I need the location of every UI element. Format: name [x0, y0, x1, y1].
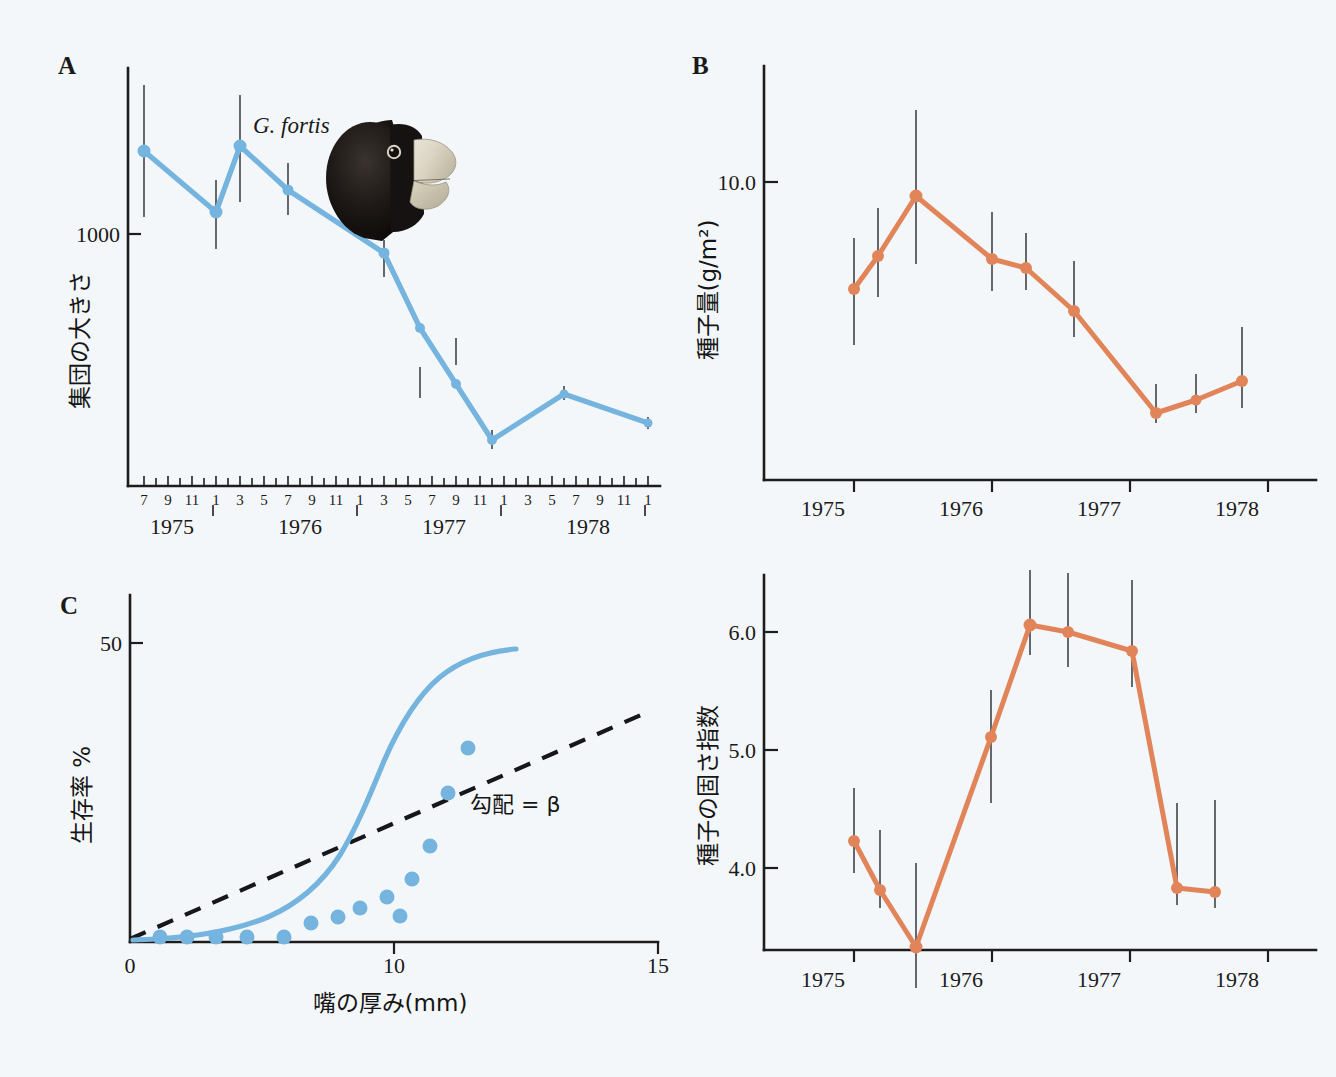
panel-a-month-label-2: 11	[185, 492, 199, 508]
panel-b-year-label-3: 1978	[1215, 496, 1259, 521]
panel-b-data-line	[854, 196, 1242, 413]
panel-d-plot: 6.0 5.0 4.0 種子の固さ指数 1975 1976 1977 1978	[668, 545, 1336, 1077]
panel-a-month-label-1: 9	[164, 492, 172, 508]
panel-d-error-bars	[854, 570, 1215, 988]
panel-d-y-axis-title: 種子の固さ指数	[695, 705, 721, 866]
panel-b-year-label-0: 1975	[801, 496, 845, 521]
panel-b: B	[668, 0, 1336, 545]
panel-b-data-points	[848, 190, 1248, 420]
panel-c: C	[0, 545, 680, 1077]
panel-b-year-label-2: 1977	[1077, 496, 1121, 521]
panel-d-y-tick-labels: 6.0 5.0 4.0	[729, 620, 757, 881]
panel-a-year-label-0: 1975	[150, 514, 194, 539]
panel-c-fitted-curve	[133, 649, 516, 940]
panel-a-month-label-9: 1	[356, 492, 364, 508]
panel-a-y-axis-title: 集団の大きさ	[67, 271, 93, 409]
panel-c-xtick-label-1: 10	[383, 953, 405, 978]
panel-c-data-points	[153, 741, 476, 945]
panel-d-year-label-2: 1977	[1077, 967, 1121, 992]
panel-c-slope-annotation: 勾配 = β	[470, 792, 560, 817]
panel-d-y-ticks	[764, 632, 778, 868]
panel-b-ytick-label-0: 10.0	[718, 170, 757, 195]
panel-a-plot: 1000 集団の大きさ G. fortis 7 9 11 1 3 5 7 9 1…	[0, 0, 680, 545]
panel-a-month-label-16: 3	[524, 492, 532, 508]
finch-head-illustration	[326, 120, 456, 241]
panel-a-month-label-20: 11	[617, 492, 631, 508]
panel-a-month-label-3: 1	[212, 492, 220, 508]
panel-a-month-label-17: 5	[548, 492, 556, 508]
panel-d-ytick-label-1: 5.0	[729, 738, 757, 763]
panel-c-y-axis-title: 生存率 %	[69, 746, 95, 844]
panel-a-month-label-12: 7	[428, 492, 436, 508]
panel-b-error-bars	[854, 110, 1242, 423]
panel-d-data-points	[848, 619, 1221, 954]
panel-d-ytick-label-0: 6.0	[729, 620, 757, 645]
panel-a-month-label-18: 7	[572, 492, 580, 508]
panel-d-year-label-0: 1975	[801, 967, 845, 992]
panel-c-ytick-label-0: 50	[100, 631, 122, 656]
panel-a-month-label-8: 11	[329, 492, 343, 508]
panel-a-month-label-5: 5	[260, 492, 268, 508]
panel-a-month-label-14: 11	[473, 492, 487, 508]
panel-a-month-ticks	[144, 476, 648, 486]
panel-a-month-label-10: 3	[380, 492, 388, 508]
panel-a-year-label-2: 1977	[422, 514, 466, 539]
panel-c-xtick-label-2: 15	[647, 953, 669, 978]
panel-a-year-label-3: 1978	[566, 514, 610, 539]
panel-a-month-label-15: 1	[500, 492, 508, 508]
panel-a-month-label-21: 1	[644, 492, 652, 508]
panel-b-year-label-1: 1976	[939, 496, 983, 521]
panel-b-year-labels: 1975 1976 1977 1978	[801, 496, 1259, 521]
panel-a-ytick-label-0: 1000	[76, 222, 120, 247]
panel-a-letter: A	[58, 52, 76, 80]
panel-d-ytick-label-2: 4.0	[729, 856, 757, 881]
panel-d-data-line	[854, 625, 1215, 947]
panel-a-month-label-7: 9	[308, 492, 316, 508]
panel-c-plot: 50 0 10 15 生存率 % 嘴の厚み(mm) 勾配 = β	[0, 545, 680, 1077]
panel-a-year-label-1: 1976	[278, 514, 322, 539]
panel-a-month-label-19: 9	[596, 492, 604, 508]
panel-b-y-axis-title: 種子量(g/m²)	[695, 220, 721, 361]
panel-c-letter: C	[60, 592, 78, 620]
panel-a-month-label-4: 3	[236, 492, 244, 508]
panel-a-month-label-13: 9	[452, 492, 460, 508]
panel-d-year-label-1: 1976	[939, 967, 983, 992]
panel-d: 6.0 5.0 4.0 種子の固さ指数 1975 1976 1977 1978	[668, 545, 1336, 1077]
panel-a-species-label: G. fortis	[253, 113, 330, 138]
panel-c-xtick-label-0: 0	[125, 953, 136, 978]
panel-d-year-label-3: 1978	[1215, 967, 1259, 992]
panel-a-month-labels: 7 9 11 1 3 5 7 9 11 1 3 5 7 9 11 1 3 5 7…	[140, 492, 652, 508]
panel-b-x-ticks	[854, 480, 1268, 492]
panel-c-x-axis-title: 嘴の厚み(mm)	[313, 990, 468, 1016]
panel-a-year-labels: 1975 1976 1977 1978	[150, 514, 610, 539]
panel-a-month-label-0: 7	[140, 492, 148, 508]
panel-b-letter: B	[692, 52, 709, 80]
panel-a-month-label-6: 7	[284, 492, 292, 508]
panel-d-year-labels: 1975 1976 1977 1978	[801, 967, 1259, 992]
panel-b-plot: 10.0 種子量(g/m²) 1975 1976 1977 1978	[668, 0, 1336, 545]
panel-a-month-label-11: 5	[404, 492, 412, 508]
panel-a: A	[0, 0, 680, 545]
figure-root: A	[0, 0, 1336, 1077]
